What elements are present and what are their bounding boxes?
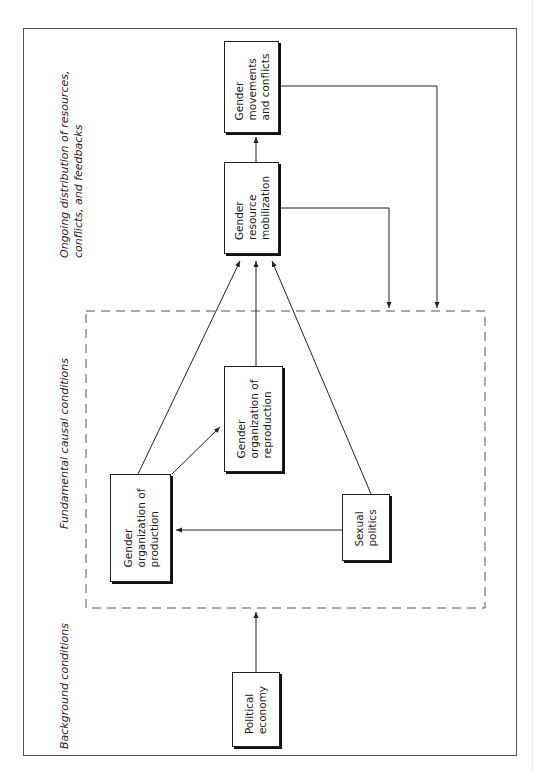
box-text: Political economy [243,685,269,733]
box-gender-resource-mobilization: Gender resource mobilization [224,162,279,254]
box-text: Gender organization of reproduction [234,380,273,459]
box-text: Gender movements and conflicts [232,54,271,121]
section-label-ongoing: Ongoing distribution of resources, confl… [58,71,86,258]
box-gender-organization-of-reproduction: Gender organization of reproduction [224,366,283,472]
box-gender-organization-of-production: Gender organization of production [110,474,171,582]
box-text: Gender organization of production [121,489,160,568]
box-political-economy: Political economy [232,672,280,747]
section-label-fundamental: Fundamental causal conditions [58,358,72,529]
box-sexual-politics: Sexual politics [342,494,390,561]
box-text: Sexual politics [353,509,379,546]
box-gender-movements-and-conflicts: Gender movements and conflicts [224,41,279,133]
section-label-background: Background conditions [58,623,72,749]
box-text: Gender resource mobilization [232,176,271,240]
